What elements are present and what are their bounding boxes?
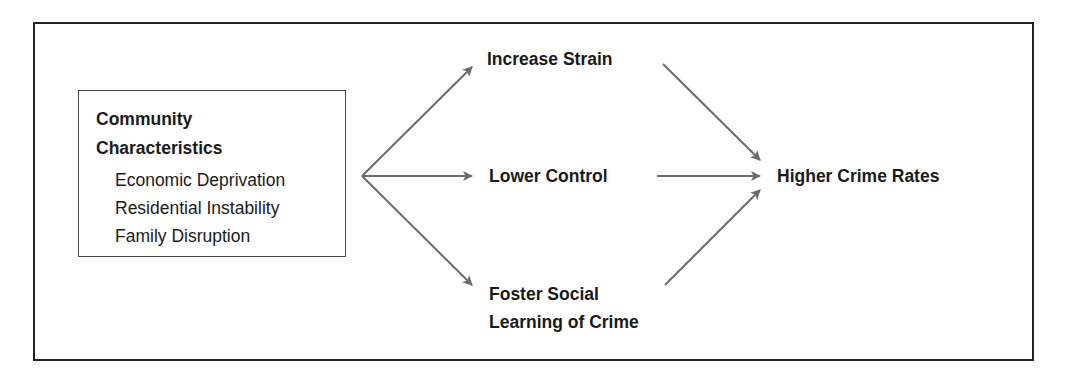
node-label: Learning of Crime bbox=[489, 308, 639, 336]
node-lower-control: Lower Control bbox=[489, 162, 608, 190]
source-item-economic-deprivation: Economic Deprivation bbox=[115, 166, 285, 194]
source-title: Community Characteristics bbox=[96, 105, 222, 163]
source-item-family-disruption: Family Disruption bbox=[115, 222, 285, 250]
source-title-line: Characteristics bbox=[96, 134, 222, 163]
node-higher-crime-rates: Higher Crime Rates bbox=[777, 162, 939, 190]
community-characteristics-box: Community Characteristics Economic Depri… bbox=[78, 90, 346, 257]
node-label: Foster Social bbox=[489, 280, 639, 308]
node-label: Increase Strain bbox=[487, 45, 612, 73]
source-title-line: Community bbox=[96, 105, 222, 134]
node-foster-social-learning: Foster Social Learning of Crime bbox=[489, 280, 639, 336]
outcome-label: Higher Crime Rates bbox=[777, 162, 939, 190]
source-items-list: Economic Deprivation Residential Instabi… bbox=[115, 166, 285, 250]
source-item-residential-instability: Residential Instability bbox=[115, 194, 285, 222]
node-label: Lower Control bbox=[489, 162, 608, 190]
node-increase-strain: Increase Strain bbox=[487, 45, 612, 73]
